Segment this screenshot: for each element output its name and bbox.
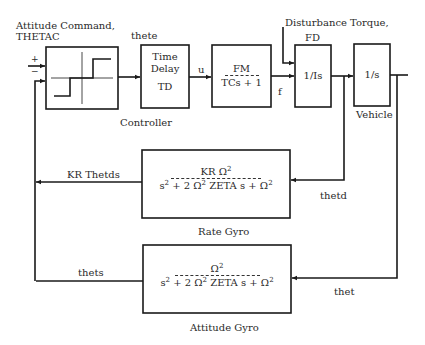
actuator-denominator: TCs + 1 bbox=[212, 77, 271, 88]
time-delay-line3: TD bbox=[141, 81, 189, 93]
command-label-line2: THETAC bbox=[16, 31, 115, 42]
deadzone-relay-icon bbox=[51, 52, 113, 104]
rate-feedback-label: KR Thetds bbox=[67, 169, 120, 180]
attitude-gyro-transfer-function: Ω2 s2 + 2 Ω2 ZETA s + Ω2 bbox=[143, 263, 291, 288]
time-delay-line1: Time bbox=[141, 51, 189, 63]
time-delay-text: Time Delay TD bbox=[141, 51, 189, 93]
rate-gyro-numerator: KR Ω2 bbox=[142, 166, 290, 177]
rate-pickoff-line bbox=[291, 76, 344, 180]
actuator-numerator: FM bbox=[212, 63, 271, 74]
thet-label: thet bbox=[334, 286, 354, 297]
thete-label: thete bbox=[131, 30, 157, 41]
thets-label: thets bbox=[78, 267, 104, 278]
command-label: Attitude Command, THETAC bbox=[16, 20, 115, 42]
time-delay-line2: Delay bbox=[141, 63, 189, 75]
vehicle-caption: Vehicle bbox=[356, 109, 393, 120]
actuator-transfer-function: FM TCs + 1 bbox=[212, 63, 271, 88]
controller-caption: Controller bbox=[120, 117, 172, 128]
disturbance-line bbox=[283, 27, 294, 63]
disturbance-label-line2: FD bbox=[305, 32, 320, 43]
inertia-text: 1/Is bbox=[295, 70, 331, 81]
rate-gyro-transfer-function: KR Ω2 s2 + 2 Ω2 ZETA s + Ω2 bbox=[142, 166, 290, 191]
fraction-bar bbox=[171, 178, 261, 179]
thetd-label: thetd bbox=[320, 190, 347, 201]
fraction-bar bbox=[175, 275, 260, 276]
rate-gyro-caption: Rate Gyro bbox=[198, 226, 249, 237]
vehicle-text: 1/s bbox=[354, 69, 390, 80]
u-label: u bbox=[198, 64, 204, 75]
feedback-summing-line bbox=[35, 81, 45, 281]
attitude-gyro-denominator: s2 + 2 Ω2 ZETA s + Ω2 bbox=[143, 277, 291, 288]
plus-sign: + bbox=[31, 54, 39, 65]
attitude-gyro-caption: Attitude Gyro bbox=[190, 322, 259, 333]
f-label: f bbox=[278, 86, 282, 97]
disturbance-label-line1: Disturbance Torque, bbox=[285, 17, 389, 28]
minus-sign: − bbox=[31, 66, 39, 77]
rate-gyro-denominator: s2 + 2 Ω2 ZETA s + Ω2 bbox=[142, 180, 290, 191]
fraction-bar bbox=[225, 75, 259, 76]
attitude-gyro-numerator: Ω2 bbox=[143, 263, 291, 274]
command-label-line1: Attitude Command, bbox=[16, 20, 115, 31]
